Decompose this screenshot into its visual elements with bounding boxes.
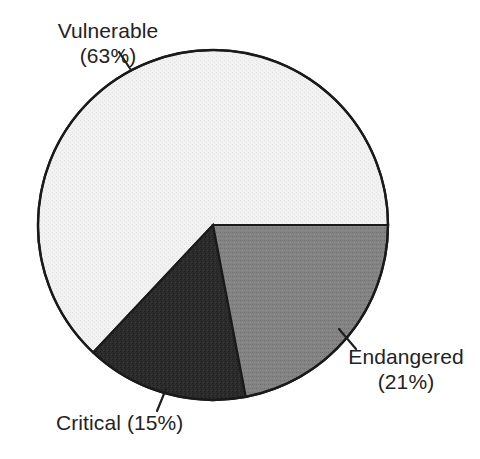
pie-label-endangered-percent: (21%) bbox=[334, 369, 478, 394]
pie-label-vulnerable: Vulnerable (63%) bbox=[28, 18, 188, 68]
pie-label-critical: Critical (15%) bbox=[56, 410, 276, 435]
pie-label-vulnerable-percent: (63%) bbox=[28, 43, 188, 68]
pie-label-critical-name: Critical (15%) bbox=[56, 410, 276, 435]
pie-label-endangered: Endangered (21%) bbox=[334, 344, 478, 394]
pie-label-endangered-name: Endangered bbox=[334, 344, 478, 369]
pie-label-vulnerable-name: Vulnerable bbox=[28, 18, 188, 43]
pie-chart-page: Vulnerable (63%) Endangered (21%) Critic… bbox=[0, 0, 480, 459]
